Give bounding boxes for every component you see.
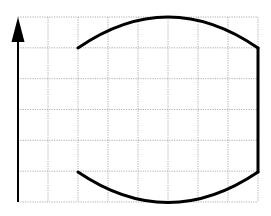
arrow-up-icon [12,17,25,42]
grid [18,17,258,202]
diagram-canvas [0,0,271,216]
